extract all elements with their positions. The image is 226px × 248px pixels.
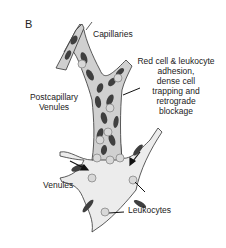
venules-label: Venules bbox=[43, 180, 73, 190]
leukocyte bbox=[88, 174, 96, 182]
adhesion-annotation: Red cell & leukocyte adhesion, dense cel… bbox=[124, 56, 226, 116]
leukocyte bbox=[101, 208, 109, 216]
annotation-line: blockage bbox=[124, 106, 226, 116]
venules-line: Venules bbox=[24, 102, 84, 112]
leukocyte bbox=[106, 104, 114, 112]
leukocyte bbox=[116, 154, 124, 162]
postcapillary-venules-label: Postcapillary Venules bbox=[24, 92, 84, 112]
leukocyte bbox=[93, 154, 101, 162]
annotation-line: adhesion, bbox=[124, 66, 226, 76]
leukocyte bbox=[104, 128, 112, 136]
leukocytes-label: Leukocytes bbox=[128, 205, 171, 215]
capillaries-label: Capillaries bbox=[93, 29, 133, 39]
annotation-line: Red cell & leukocyte bbox=[124, 56, 226, 66]
leukocyte bbox=[114, 74, 122, 82]
leukocyte bbox=[78, 60, 86, 68]
postcapillary-line: Postcapillary bbox=[24, 92, 84, 102]
leukocyte bbox=[96, 136, 104, 144]
annotation-line: retrograde bbox=[124, 96, 226, 106]
leukocyte bbox=[106, 156, 114, 164]
panel-label: B bbox=[25, 19, 32, 29]
capillary-edge bbox=[86, 22, 92, 30]
annotation-line: trapping and bbox=[124, 86, 226, 96]
annotation-line: dense cell bbox=[124, 76, 226, 86]
